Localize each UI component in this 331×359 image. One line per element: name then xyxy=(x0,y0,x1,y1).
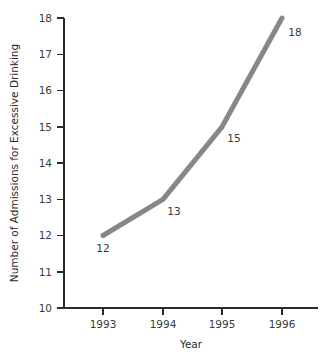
x-tick-label-1994: 1994 xyxy=(150,318,177,330)
x-axis-title: Year xyxy=(179,338,203,350)
x-tick-label-1996: 1996 xyxy=(269,318,296,330)
y-axis-title: Number of Admissions for Excessive Drink… xyxy=(8,44,20,282)
y-tick-label-11: 11 xyxy=(39,266,52,278)
x-tick-label-1995: 1995 xyxy=(209,318,236,330)
point-label-1994: 13 xyxy=(167,205,180,217)
series-line-admissions xyxy=(103,18,282,236)
line-chart: 10 11 12 13 14 15 16 17 18 1993 1994 199… xyxy=(0,0,331,359)
y-tick-label-13: 13 xyxy=(39,193,52,205)
point-label-1995: 15 xyxy=(227,132,240,144)
y-tick-label-15: 15 xyxy=(39,121,52,133)
y-tick-label-10: 10 xyxy=(39,302,52,314)
point-label-1996: 18 xyxy=(288,26,301,38)
y-tick-label-16: 16 xyxy=(39,84,53,96)
y-tick-label-14: 14 xyxy=(39,157,53,169)
y-tick-label-17: 17 xyxy=(39,48,52,60)
x-tick-label-1993: 1993 xyxy=(90,318,117,330)
chart-canvas: 10 11 12 13 14 15 16 17 18 1993 1994 199… xyxy=(0,0,331,359)
y-tick-label-12: 12 xyxy=(39,229,52,241)
point-label-1993: 12 xyxy=(96,242,109,254)
y-tick-label-18: 18 xyxy=(39,12,52,24)
